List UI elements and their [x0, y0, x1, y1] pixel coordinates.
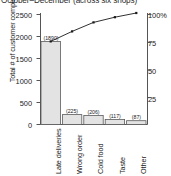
bar-cold-food: [84, 115, 103, 124]
line-marker-taste: [114, 16, 116, 18]
line-marker-cold-food: [92, 21, 94, 23]
pareto-chart: October–December (across six shops) Tota…: [0, 0, 171, 176]
bar-late-deliveries: [41, 41, 60, 124]
bar-value-taste: (117): [103, 113, 127, 119]
x-category-other: Other: [139, 156, 148, 174]
bar-other: [127, 121, 146, 125]
bar-taste: [105, 119, 124, 124]
bar-value-wrong-order: (225): [60, 108, 84, 114]
x-category-taste: Taste: [118, 157, 127, 174]
bar-value-late-deliveries: (1890): [39, 35, 63, 41]
line-marker-wrong-order: [71, 30, 73, 32]
x-category-late-deliveries: Late deliveries: [54, 128, 63, 174]
x-category-cold-food: Cold food: [96, 144, 105, 174]
x-category-wrong-order: Wrong order: [75, 135, 84, 174]
bar-value-cold-food: (206): [82, 109, 106, 115]
bar-value-other: (87): [124, 114, 148, 120]
bar-wrong-order: [62, 115, 81, 125]
line-marker-late-deliveries: [50, 40, 52, 42]
cumulative-percentage-line: [51, 13, 137, 41]
line-marker-other: [135, 12, 137, 14]
chart-canvas: [0, 0, 171, 176]
